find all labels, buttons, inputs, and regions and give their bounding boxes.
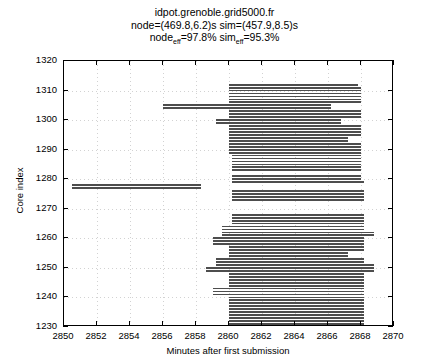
task-bar [229, 302, 364, 304]
task-bar [229, 323, 364, 325]
y-tick-mark [63, 296, 68, 297]
task-bar [232, 193, 364, 195]
task-bar [229, 149, 361, 151]
task-bar [232, 223, 364, 225]
title-node-eff-subscript: eff [173, 38, 181, 45]
task-bar [222, 229, 364, 231]
task-bar [229, 320, 364, 322]
title-node-eff-label: node [150, 31, 173, 43]
task-bar [216, 119, 341, 121]
task-bar [213, 291, 365, 293]
task-bar [72, 187, 201, 189]
task-bar [229, 317, 364, 319]
task-bar [216, 261, 365, 263]
task-bar [232, 220, 364, 222]
task-bar [229, 305, 364, 307]
x-tick-mark [195, 60, 196, 65]
task-bar [229, 246, 364, 248]
task-bar [213, 288, 365, 290]
task-bar [229, 297, 364, 299]
task-bar [229, 311, 364, 313]
task-bar [232, 190, 364, 192]
x-tick-mark [195, 321, 196, 326]
y-tick-mark [388, 237, 393, 238]
task-bar [229, 87, 361, 89]
task-bar [213, 240, 365, 242]
task-bar [229, 279, 364, 281]
title-line-efficiency: nodeeff=97.8% simeff=95.3% [0, 31, 429, 49]
task-bar [229, 273, 364, 275]
y-tick-mark [63, 60, 68, 61]
y-tick-label: 1300 [17, 113, 57, 124]
title-node-eff-value: =97.8% sim [181, 31, 236, 43]
task-bar [216, 264, 374, 266]
task-bar [232, 214, 364, 216]
x-axis-label: Minutes after first submission [63, 345, 393, 356]
task-bar [232, 196, 364, 198]
task-bar [229, 84, 358, 86]
y-tick-mark [388, 60, 393, 61]
title-line-timings: node=(469.8,6.2)s sim=(457.9,8.5)s [0, 19, 429, 32]
y-tick-mark [63, 90, 68, 91]
task-bar [232, 169, 361, 171]
task-bar [216, 122, 341, 124]
task-bar [232, 166, 361, 168]
task-bar [229, 143, 361, 145]
task-bar [222, 226, 364, 228]
y-tick-mark [63, 267, 68, 268]
task-bar [232, 217, 364, 219]
x-tick-mark [393, 321, 394, 326]
task-bar [229, 285, 364, 287]
task-bar [229, 131, 361, 133]
y-tick-mark [388, 326, 393, 327]
task-bar [229, 276, 364, 278]
y-tick-mark [63, 326, 68, 327]
task-bar [229, 140, 348, 142]
task-bar [229, 282, 364, 284]
task-bar [229, 110, 361, 112]
task-bar [213, 237, 365, 239]
task-bar [229, 152, 361, 154]
y-tick-label: 1320 [17, 54, 57, 65]
x-tick-mark [261, 321, 262, 326]
task-bar [213, 243, 365, 245]
x-tick-mark [162, 60, 163, 65]
task-bar [229, 299, 364, 301]
x-tick-mark [327, 60, 328, 65]
x-tick-mark [129, 60, 130, 65]
x-tick-mark [228, 60, 229, 65]
task-bar [229, 128, 361, 130]
x-tick-label: 2870 [371, 330, 415, 341]
y-tick-mark [388, 90, 393, 91]
task-bar [222, 234, 374, 236]
task-bar [229, 249, 364, 251]
chart-title: idpot.grenoble.grid5000.fr node=(469.8,6… [0, 6, 429, 49]
x-tick-mark [228, 321, 229, 326]
x-tick-mark [96, 321, 97, 326]
task-bar [229, 90, 361, 92]
x-tick-mark [360, 60, 361, 65]
x-tick-mark [360, 321, 361, 326]
plot-area [63, 60, 393, 326]
y-tick-mark [388, 208, 393, 209]
y-tick-mark [388, 178, 393, 179]
task-bar [206, 267, 374, 269]
y-tick-mark [63, 149, 68, 150]
task-bar [229, 255, 348, 257]
task-bar [229, 308, 364, 310]
x-tick-mark [261, 60, 262, 65]
task-bar [232, 181, 364, 183]
y-tick-mark [63, 178, 68, 179]
x-tick-mark [294, 60, 295, 65]
task-bar [229, 314, 364, 316]
y-tick-label: 1290 [17, 143, 57, 154]
title-line-hostname: idpot.grenoble.grid5000.fr [0, 6, 429, 19]
task-bar [229, 146, 361, 148]
y-tick-label: 1260 [17, 231, 57, 242]
task-bar [229, 96, 361, 98]
task-bar [229, 93, 361, 95]
title-sim-eff-value: =95.3% [243, 31, 279, 43]
y-tick-mark [388, 149, 393, 150]
bars-layer [64, 61, 392, 325]
x-tick-mark [327, 321, 328, 326]
